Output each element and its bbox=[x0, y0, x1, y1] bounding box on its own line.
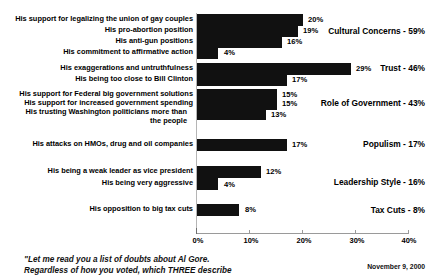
x-tick-0 bbox=[196, 228, 197, 234]
x-tick-label-0: 0% bbox=[193, 236, 204, 245]
bar-3 bbox=[197, 47, 218, 59]
group-label-role-of-government: Role of Government - 43% bbox=[321, 98, 425, 108]
bar-value-7: 15% bbox=[282, 99, 297, 108]
bar-value-11: 4% bbox=[224, 180, 235, 189]
bar-value-5: 17% bbox=[292, 75, 307, 84]
bar-value-2: 16% bbox=[287, 37, 302, 46]
footer-quote-line-1: "Let me read you a list of doubts about … bbox=[24, 254, 324, 265]
x-tick-10 bbox=[249, 230, 250, 234]
x-tick-30 bbox=[355, 230, 356, 234]
bar-value-6: 15% bbox=[282, 90, 297, 99]
bar-10 bbox=[197, 166, 261, 178]
bar-value-9: 17% bbox=[292, 140, 307, 149]
group-label-cultural-concerns: Cultural Concerns - 59% bbox=[328, 26, 425, 36]
bar-label-11: His being very aggressive bbox=[102, 179, 193, 188]
x-tick-40 bbox=[408, 230, 409, 234]
footer-quote: "Let me read you a list of doubts about … bbox=[24, 254, 324, 276]
x-tick-label-10: 10% bbox=[243, 236, 258, 245]
bar-value-3: 4% bbox=[224, 48, 235, 57]
x-tick-label-20: 20% bbox=[296, 236, 311, 245]
bar-9 bbox=[197, 139, 287, 151]
bar-label-0: His support for legalizing the union of … bbox=[15, 15, 193, 24]
bar-value-10: 12% bbox=[266, 167, 281, 176]
bar-12 bbox=[197, 204, 239, 216]
x-tick-label-40: 40% bbox=[401, 236, 416, 245]
bar-label-10: His being a weak leader as vice presiden… bbox=[48, 167, 193, 176]
group-label-leadership-style: Leadership Style - 16% bbox=[334, 177, 425, 187]
group-label-populism: Populism - 17% bbox=[363, 139, 425, 149]
bar-11 bbox=[197, 178, 218, 190]
bar-label-9: His attacks on HMOs, drug and oil compan… bbox=[32, 140, 193, 149]
x-tick-20 bbox=[302, 230, 303, 234]
bar-label-8: His trusting Washington politicians more… bbox=[22, 108, 187, 125]
group-label-trust: Trust - 46% bbox=[380, 63, 425, 73]
bar-label-1: His pro-abortion position bbox=[105, 26, 193, 35]
bar-label-4: His exaggerations and untruthfulness bbox=[60, 64, 193, 73]
x-tick-label-30: 30% bbox=[349, 236, 364, 245]
bar-value-8: 13% bbox=[271, 110, 286, 119]
bar-5 bbox=[197, 74, 287, 86]
bar-value-12: 8% bbox=[245, 205, 256, 214]
footer-date: November 9, 2000 bbox=[367, 263, 425, 270]
bar-label-3: His commitment to affirmative action bbox=[63, 48, 193, 57]
bar-value-0: 20% bbox=[308, 15, 323, 24]
group-label-tax-cuts: Tax Cuts - 8% bbox=[371, 205, 425, 215]
footer-quote-line-2: Regardless of how you voted, which THREE… bbox=[24, 265, 324, 276]
bar-label-5: His being too close to Bill Clinton bbox=[75, 75, 193, 84]
bar-value-4: 29% bbox=[356, 64, 371, 73]
bar-label-12: His opposition to big tax cuts bbox=[90, 205, 193, 214]
bar-label-2: His anti-gun positions bbox=[115, 37, 193, 46]
bar-value-1: 19% bbox=[303, 26, 318, 35]
bar-8 bbox=[197, 108, 266, 120]
